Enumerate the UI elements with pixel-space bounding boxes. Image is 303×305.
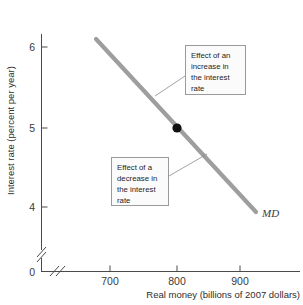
x-tick-label-800: 800 (168, 275, 186, 287)
callout-decrease-line-1: Effect of a (117, 162, 164, 173)
y-tick-label-5: 5 (29, 122, 35, 134)
callout-increase-line-3: the interest (191, 72, 241, 83)
y-tick-label-4: 4 (29, 201, 35, 213)
y-tick-label-6: 6 (29, 41, 35, 53)
callout-increase-interest-rate: Effect of an increase in the interest ra… (185, 45, 246, 95)
x-axis-title: Real money (billions of 2007 dollars) (146, 289, 300, 300)
money-demand-chart: 6 5 4 0 700 800 900 Interest rate (perce… (0, 0, 303, 305)
callout-decrease-line-3: the interest (117, 184, 164, 195)
callout-decrease-line-2: decrease in (117, 173, 164, 184)
chart-plot-area: 6 5 4 0 700 800 900 Interest rate (perce… (0, 0, 303, 305)
callout-increase-line-2: increase in (191, 61, 241, 72)
callout-decrease-interest-rate: Effect of a decrease in the interest rat… (111, 157, 169, 206)
callout-decrease-line-4: rate (117, 195, 164, 206)
leader-line-increase (155, 76, 185, 96)
y-axis-title: Interest rate (percent per year) (5, 66, 16, 195)
curve-label-md: MD (261, 207, 279, 219)
equilibrium-point (172, 123, 181, 132)
leader-line-decrease (169, 154, 207, 176)
callout-increase-line-1: Effect of an (191, 50, 241, 61)
x-tick-label-700: 700 (101, 275, 119, 287)
origin-label: 0 (29, 266, 35, 278)
callout-increase-line-4: rate (191, 83, 241, 94)
x-tick-label-900: 900 (231, 275, 249, 287)
